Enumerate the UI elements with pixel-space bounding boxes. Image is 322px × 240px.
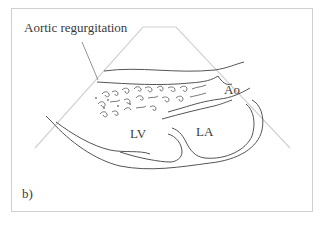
annotation-leader-line <box>82 42 98 80</box>
aorta-label: Ao <box>224 82 240 98</box>
left-ventricle-label: LV <box>130 126 146 142</box>
panel-label: b) <box>22 186 33 202</box>
aortic-upper-wall <box>104 62 244 71</box>
left-atrium-label: LA <box>196 124 213 140</box>
lvot-upper-wall <box>97 76 232 85</box>
anterior-mitral-leaflet <box>162 100 232 119</box>
annotation-label: Aortic regurgitation <box>24 20 127 36</box>
